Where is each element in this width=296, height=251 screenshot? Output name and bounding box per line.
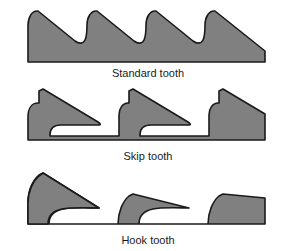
skip-tooth-caption: Skip tooth — [0, 150, 296, 163]
tooth-band-skip: Skip tooth — [0, 84, 296, 168]
skip-tooth-profile-svg — [0, 84, 296, 144]
hook-tooth-profile-svg — [0, 168, 296, 228]
standard-tooth-blade-path — [28, 11, 265, 62]
standard-tooth-profile-svg — [0, 0, 296, 63]
tooth-band-standard: Standard tooth — [0, 0, 296, 84]
hook-tooth-blade-path-detail — [28, 173, 99, 224]
tooth-band-hook: Hook tooth — [0, 168, 296, 251]
standard-tooth-caption: Standard tooth — [0, 67, 296, 80]
skip-tooth-blade-path — [28, 89, 265, 140]
hook-tooth-caption: Hook tooth — [0, 234, 296, 247]
band-saw-tooth-forms-figure: Standard tooth Skip tooth Hook tooth — [0, 0, 296, 251]
